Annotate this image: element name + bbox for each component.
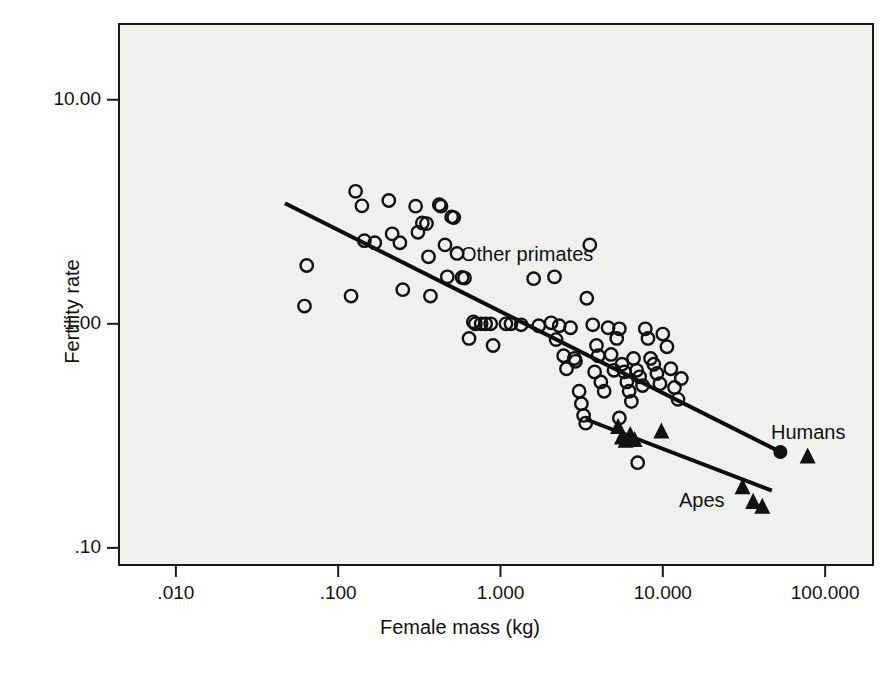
- series-label-humans: Humans: [771, 421, 845, 444]
- x-tick-label: .100: [268, 582, 408, 604]
- y-tick-label: .10: [0, 536, 101, 558]
- y-tick-label: 10.00: [0, 88, 101, 110]
- y-axis-title: Fertility rate: [61, 232, 84, 392]
- plot-area: [118, 23, 874, 566]
- series-label-other-primates: Other primates: [461, 243, 593, 266]
- y-tick-label: 1.00: [0, 312, 101, 334]
- x-tick-label: 100.000: [755, 582, 895, 604]
- x-tick-label: 1.000: [431, 582, 571, 604]
- series-label-apes: Apes: [679, 489, 725, 512]
- x-tick-label: 10.000: [593, 582, 733, 604]
- chart-root: 10.00 1.00 .10 .010 .100 1.000 10.000 10…: [0, 0, 896, 674]
- x-tick-label: .010: [106, 582, 246, 604]
- x-axis-title: Female mass (kg): [380, 616, 540, 639]
